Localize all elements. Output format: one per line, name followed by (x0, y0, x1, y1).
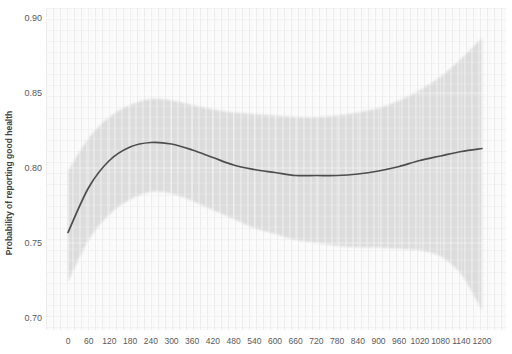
y-tick-label: 0.85 (0, 88, 42, 99)
y-tick-label: 0.90 (0, 13, 42, 24)
y-tick-label: 0.80 (0, 163, 42, 174)
plot-area (46, 8, 506, 330)
y-tick-label: 0.75 (0, 238, 42, 249)
texture-overlay (46, 8, 506, 330)
x-tick-label: 1200 (466, 335, 498, 347)
y-tick-label: 0.70 (0, 313, 42, 324)
chart-canvas (46, 8, 506, 330)
y-axis-title: Probability of reporting good health (4, 84, 16, 282)
health-probability-chart: Probability of reporting good health 0.9… (0, 0, 512, 354)
